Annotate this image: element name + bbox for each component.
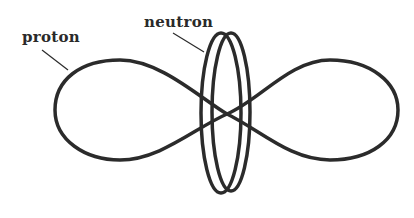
proton-leader-line	[42, 50, 68, 70]
proton-label: proton	[22, 28, 80, 46]
neutron-leader-line	[173, 33, 204, 52]
neutron-label: neutron	[144, 13, 213, 31]
neutron-ring-outer-a	[201, 33, 241, 193]
proton-loop	[55, 60, 398, 160]
